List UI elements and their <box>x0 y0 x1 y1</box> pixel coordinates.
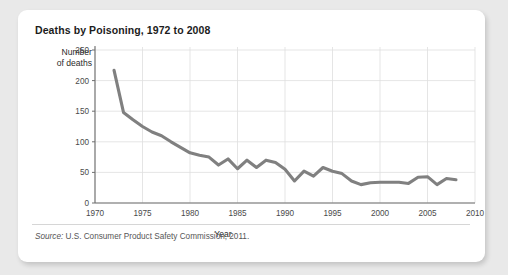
x-axis-tick-label: 2010 <box>466 209 485 218</box>
y-axis-tick-labels: 050100150200250 <box>75 46 89 208</box>
source-label: Source: <box>35 232 63 241</box>
x-axis-tick-label: 1975 <box>133 209 152 218</box>
chart-card: Deaths by Poisoning, 1972 to 2008 050100… <box>18 10 485 262</box>
y-axis-tick-label: 50 <box>80 168 90 177</box>
x-axis-tick-label: 1990 <box>276 209 295 218</box>
y-axis-title-line2: of deaths <box>57 58 92 68</box>
y-axis-title-line1: Number <box>61 47 92 57</box>
footer-divider <box>32 224 470 225</box>
x-axis-tick-labels: 197019751980198519901995200020052010 <box>86 209 485 218</box>
y-axis-tick-label: 100 <box>75 138 89 147</box>
x-axis-tick-label: 2005 <box>418 209 437 218</box>
source-note: Source: U.S. Consumer Product Safety Com… <box>35 232 249 241</box>
y-axis-tick-label: 150 <box>75 107 89 116</box>
chart-axes <box>92 46 475 203</box>
chart-gridlines <box>95 47 475 203</box>
x-axis-tick-label: 1985 <box>228 209 247 218</box>
y-axis-tick-label: 200 <box>75 77 89 86</box>
x-axis-tick-label: 1995 <box>323 209 342 218</box>
x-axis-tick-label: 1980 <box>181 209 200 218</box>
x-axis-tick-label: 1970 <box>86 209 105 218</box>
y-axis-tick-label: 0 <box>84 199 89 208</box>
x-axis-tick-label: 2000 <box>371 209 390 218</box>
source-text: U.S. Consumer Product Safety Commission,… <box>63 232 249 241</box>
